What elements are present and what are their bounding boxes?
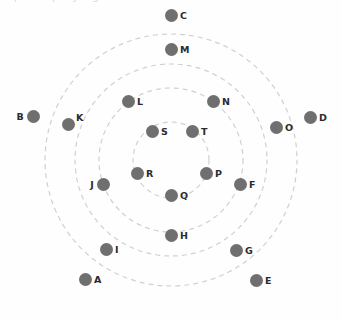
- node-dot-c[interactable]: [165, 9, 178, 22]
- node-dot-j[interactable]: [97, 178, 110, 191]
- node-label-h: H: [180, 231, 188, 241]
- node-label-l: L: [137, 97, 143, 107]
- node-dot-d[interactable]: [304, 111, 317, 124]
- node-label-j: J: [90, 180, 94, 190]
- node-dot-b[interactable]: [27, 110, 40, 123]
- node-label-g: G: [245, 246, 253, 256]
- node-dot-n[interactable]: [207, 95, 220, 108]
- node-label-r: R: [146, 169, 154, 179]
- node-dot-q[interactable]: [165, 189, 178, 202]
- node-label-p: P: [215, 169, 222, 179]
- node-dot-i[interactable]: [100, 243, 113, 256]
- node-label-a: A: [94, 275, 102, 285]
- node-label-k: K: [76, 113, 84, 123]
- node-dot-e[interactable]: [250, 274, 263, 287]
- node-dot-l[interactable]: [122, 95, 135, 108]
- node-dot-t[interactable]: [186, 125, 199, 138]
- node-dot-h[interactable]: [165, 229, 178, 242]
- node-dot-s[interactable]: [146, 125, 159, 138]
- node-dot-g[interactable]: [230, 244, 243, 257]
- node-label-e: E: [265, 276, 272, 286]
- node-dot-o[interactable]: [270, 121, 283, 134]
- node-label-q: Q: [180, 191, 188, 201]
- node-label-c: C: [180, 11, 187, 21]
- ring-second: [99, 88, 243, 232]
- node-dot-f[interactable]: [234, 178, 247, 191]
- node-dot-k[interactable]: [62, 118, 75, 131]
- node-label-d: D: [319, 113, 327, 123]
- diagram-canvas: p . p y g ABCDEFGHIJKLMNOPQRST: [0, 0, 342, 321]
- node-label-n: N: [222, 97, 230, 107]
- node-label-f: F: [249, 180, 256, 190]
- node-dot-a[interactable]: [79, 273, 92, 286]
- node-label-b: B: [17, 112, 24, 122]
- node-dot-m[interactable]: [165, 43, 178, 56]
- node-label-t: T: [201, 127, 208, 137]
- node-label-o: O: [285, 123, 293, 133]
- node-dot-p[interactable]: [200, 167, 213, 180]
- node-label-m: M: [180, 45, 190, 55]
- ring-outer: [45, 34, 297, 286]
- node-label-s: S: [161, 127, 168, 137]
- ring-third: [75, 64, 267, 256]
- node-label-i: I: [115, 245, 119, 255]
- node-dot-r[interactable]: [131, 167, 144, 180]
